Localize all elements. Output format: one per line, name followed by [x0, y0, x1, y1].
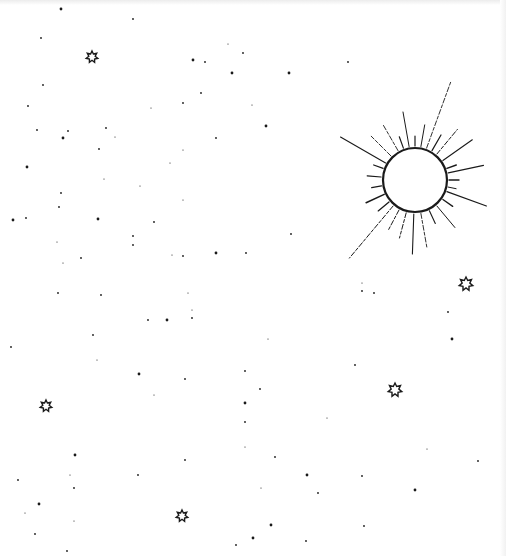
dot-icon: [153, 394, 154, 395]
dot-icon: [184, 459, 186, 461]
dot-icon: [147, 319, 149, 321]
dot-icon: [200, 92, 202, 94]
dot-icon: [184, 378, 186, 380]
sun-ray: [443, 140, 472, 161]
dot-icon: [270, 524, 273, 527]
dot-icon: [153, 221, 155, 223]
dot-icon: [98, 148, 100, 150]
dot-icon: [251, 104, 252, 105]
dot-icon: [227, 43, 228, 44]
dot-icon: [24, 512, 25, 513]
dot-icon: [132, 235, 134, 237]
sun-ray: [432, 135, 441, 151]
dot-icon: [215, 137, 217, 139]
dot-icon: [34, 533, 36, 535]
sun-ray: [349, 206, 393, 258]
dot-icon: [27, 105, 29, 107]
sun-ray: [437, 206, 455, 228]
dot-icon: [191, 317, 193, 319]
dot-icon: [137, 474, 139, 476]
dot-icon: [62, 262, 63, 263]
dot-icon: [60, 8, 63, 11]
dot-icon: [96, 359, 97, 360]
dot-icon: [132, 18, 134, 20]
sun-ray: [421, 125, 425, 147]
sun-ray: [421, 214, 427, 248]
dot-icon: [66, 550, 68, 552]
dot-icon: [306, 474, 309, 477]
star-icon: [176, 510, 188, 521]
dot-icon: [235, 544, 237, 546]
sun-ray: [448, 187, 456, 189]
dots-layer: [10, 8, 479, 552]
dot-icon: [244, 402, 247, 405]
dot-icon: [361, 475, 363, 477]
dot-icon: [57, 292, 59, 294]
dot-icon: [40, 37, 42, 39]
dot-icon: [12, 219, 15, 222]
sun-ray: [443, 200, 453, 207]
dot-icon: [73, 487, 75, 489]
dot-icon: [166, 319, 169, 322]
sky-artwork: [0, 0, 506, 556]
dot-icon: [244, 421, 246, 423]
dot-icon: [60, 192, 62, 194]
sun-icon: [341, 82, 487, 258]
dot-icon: [426, 448, 427, 449]
dot-icon: [42, 84, 44, 86]
dot-icon: [182, 199, 183, 200]
dot-icon: [326, 417, 327, 418]
stars-layer: [40, 51, 473, 521]
dot-icon: [317, 492, 319, 494]
dot-icon: [361, 290, 363, 292]
dot-icon: [69, 474, 70, 475]
dot-icon: [451, 338, 454, 341]
dot-icon: [274, 456, 276, 458]
dot-icon: [138, 373, 141, 376]
dot-icon: [259, 388, 261, 390]
dot-icon: [25, 217, 27, 219]
star-icon: [459, 277, 473, 290]
dot-icon: [305, 540, 307, 542]
dot-icon: [231, 72, 234, 75]
dot-icon: [244, 370, 246, 372]
dot-icon: [103, 178, 104, 179]
dot-icon: [347, 61, 349, 63]
dot-icon: [204, 61, 206, 63]
sun-ray: [367, 176, 381, 177]
dot-icon: [354, 364, 356, 366]
dot-icon: [363, 525, 365, 527]
sun-ray: [447, 192, 487, 206]
dot-icon: [74, 454, 77, 457]
dot-icon: [17, 479, 19, 481]
dot-icon: [26, 166, 29, 169]
dot-icon: [92, 334, 94, 336]
sun-ray: [383, 125, 398, 151]
sun-ray: [399, 137, 403, 148]
dot-icon: [100, 294, 102, 296]
sun-ray: [341, 137, 386, 163]
dot-icon: [105, 127, 107, 129]
dot-icon: [265, 125, 268, 128]
sun-ray: [447, 165, 456, 168]
dot-icon: [56, 241, 57, 242]
dot-icon: [182, 149, 183, 150]
dot-icon: [373, 292, 375, 294]
sun-ray: [389, 210, 399, 229]
dot-icon: [252, 537, 255, 540]
dot-icon: [191, 309, 192, 310]
sun-ray: [412, 214, 413, 254]
sun-ray: [371, 136, 391, 156]
sun-ray: [378, 202, 389, 211]
dot-icon: [139, 185, 140, 186]
sun-ray: [372, 186, 382, 188]
sun-ray: [374, 165, 383, 168]
dot-icon: [267, 338, 268, 339]
dot-icon: [132, 244, 134, 246]
star-icon: [86, 51, 98, 62]
dot-icon: [38, 503, 41, 506]
dot-icon: [58, 206, 60, 208]
dot-icon: [290, 233, 292, 235]
dot-icon: [97, 218, 100, 221]
sun-ray: [429, 211, 435, 224]
